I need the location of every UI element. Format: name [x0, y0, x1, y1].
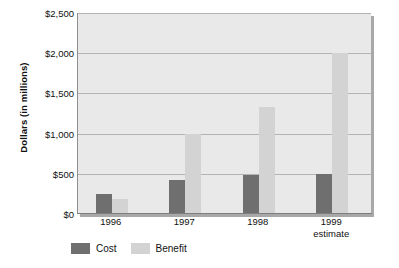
y-axis-tick-label: $2,000: [26, 48, 74, 59]
y-axis-tick-label: $1,000: [26, 128, 74, 139]
bar-cost-1997: [169, 180, 185, 214]
x-axis-tick-label: 1997: [174, 216, 195, 227]
legend-label-benefit: Benefit: [156, 243, 187, 254]
x-axis-tick-label: 1998: [247, 216, 268, 227]
plot-area: [77, 13, 371, 214]
x-axis-tick-label-year: 1996: [100, 216, 121, 227]
x-axis-tick-label-note: estimate: [313, 228, 349, 239]
gridline: [78, 93, 371, 94]
y-axis-tick-labels: $0$500$1,000$1,500$2,000$2,500: [26, 0, 74, 268]
x-axis-baseline: [77, 213, 372, 214]
bar-cost-1998: [243, 175, 259, 214]
x-axis-tick-label: 1999estimate: [313, 216, 349, 239]
plot-inner: [78, 13, 371, 214]
chart-legend: CostBenefit: [71, 243, 187, 254]
legend-label-cost: Cost: [96, 243, 117, 254]
bar-cost-1999: [316, 174, 332, 214]
x-axis-tick-label-year: 1997: [174, 216, 195, 227]
legend-item-benefit: Benefit: [131, 243, 187, 254]
y-axis-tick-label: $1,500: [26, 88, 74, 99]
x-axis-tick-label-year: 1999: [321, 216, 342, 227]
gridline: [78, 53, 371, 54]
bar-benefit-1996: [112, 199, 128, 214]
gridline: [78, 134, 371, 135]
y-axis-tick-label: $2,500: [26, 8, 74, 19]
legend-swatch-cost: [71, 243, 90, 254]
x-axis-tick-label-year: 1998: [247, 216, 268, 227]
bar-benefit-1997: [185, 134, 201, 214]
legend-swatch-benefit: [131, 243, 150, 254]
y-axis-tick-label: $0: [26, 209, 74, 220]
legend-item-cost: Cost: [71, 243, 117, 254]
bar-chart: Dollars (in millions) $0$500$1,000$1,500…: [0, 0, 399, 268]
y-axis-tick-label: $500: [26, 168, 74, 179]
bar-benefit-1999: [332, 53, 348, 214]
x-axis-tick-label: 1996: [100, 216, 121, 227]
bar-benefit-1998: [259, 107, 275, 214]
gridline: [78, 13, 371, 14]
bar-cost-1996: [96, 194, 112, 214]
